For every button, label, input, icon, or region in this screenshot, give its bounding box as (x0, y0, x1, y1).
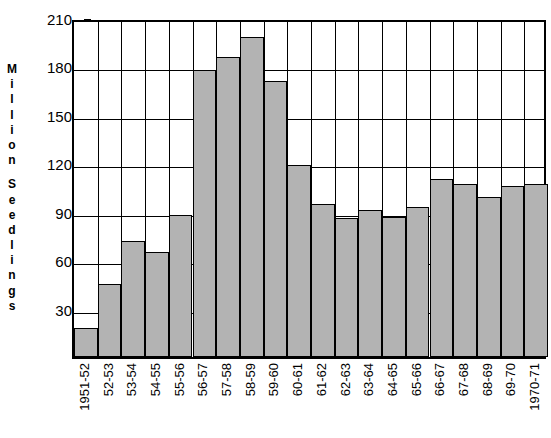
x-axis-tick-label-text: 55-56 (172, 363, 185, 396)
x-axis-tick-label-text: 59-60 (267, 363, 280, 396)
x-axis-tick-label-text: 63-64 (362, 363, 375, 396)
x-axis-tick-label: 1970-71 (522, 361, 546, 438)
y-axis-tick-label: 210 (28, 12, 72, 27)
x-axis-tick-label: 63-64 (356, 361, 380, 438)
y-axis-title-letter: l (10, 238, 13, 253)
bar (287, 165, 311, 357)
x-axis-tick-label: 55-56 (167, 361, 191, 438)
y-axis-title-letter: o (8, 138, 15, 153)
y-axis-title-letter: l (10, 92, 13, 107)
x-axis-tick-label: 67-68 (451, 361, 475, 438)
x-axis-tick-label: 62-63 (333, 361, 357, 438)
bar (193, 70, 217, 357)
bar (501, 186, 525, 357)
y-axis-title-letter: i (10, 123, 13, 138)
x-axis-tick-label-text: 68-69 (480, 363, 493, 396)
bar (74, 328, 98, 357)
x-axis-tick-label: 1951-52 (72, 361, 96, 438)
y-axis-tick-label: 30 (28, 303, 72, 318)
y-axis-tick-label: 60 (28, 254, 72, 269)
bar (145, 252, 169, 357)
x-axis-tick-label: 54-55 (143, 361, 167, 438)
y-axis-title-letter: s (9, 299, 16, 314)
bar (264, 81, 288, 357)
bar-chart: Million Seedlings 306090120150180210 195… (0, 0, 551, 438)
x-axis-tick-label: 52-53 (96, 361, 120, 438)
bar (240, 37, 264, 357)
bar (406, 207, 430, 357)
y-axis-title-letter: n (8, 153, 15, 168)
x-axis-tick-label: 64-65 (380, 361, 404, 438)
x-axis-tick-label: 58-59 (238, 361, 262, 438)
x-axis-tick-label-text: 1951-52 (77, 363, 90, 411)
x-axis-tick-label: 53-54 (119, 361, 143, 438)
x-axis-tick-label-text: 69-70 (504, 363, 517, 396)
x-axis-tick-label-text: 53-54 (125, 363, 138, 396)
x-axis-tick-label-text: 54-55 (148, 363, 161, 396)
x-axis-tick-label-text: 65-66 (409, 363, 422, 396)
bar (382, 217, 406, 357)
y-axis-tick-labels: 306090120150180210 (18, 0, 72, 438)
y-axis-title-letter: g (8, 284, 15, 299)
plot-area (72, 20, 546, 359)
bar (453, 184, 477, 357)
y-axis-title-letter: e (9, 208, 16, 223)
x-axis-tick-label-text: 67-68 (457, 363, 470, 396)
x-axis-tick-label-text: 57-58 (220, 363, 233, 396)
x-axis-tick-label-text: 62-63 (338, 363, 351, 396)
bar (477, 197, 501, 357)
bars-layer (74, 22, 544, 357)
x-axis-tick-label-text: 60-61 (291, 363, 304, 396)
bar (169, 215, 193, 357)
bar (524, 184, 548, 357)
y-axis-tick-label: 90 (28, 206, 72, 221)
x-axis-tick-label-text: 1970-71 (528, 363, 541, 411)
y-axis-title-letter: e (9, 193, 16, 208)
y-axis-title-letter: i (10, 253, 13, 268)
y-axis-title-letter: l (10, 108, 13, 123)
x-axis-tick-label: 60-61 (285, 361, 309, 438)
y-axis-tick-label: 150 (28, 109, 72, 124)
bar (358, 210, 382, 357)
y-axis-tick-label: 120 (28, 157, 72, 172)
x-axis-tick-label: 65-66 (404, 361, 428, 438)
y-axis-tick-label: 180 (28, 60, 72, 75)
bar (98, 284, 122, 357)
bar (430, 179, 454, 357)
x-axis-tick-label-text: 61-62 (314, 363, 327, 396)
x-axis-tick-label: 66-67 (428, 361, 452, 438)
y-axis-title-letter: S (8, 177, 16, 192)
y-axis-title-letter: n (8, 268, 15, 283)
x-axis-tick-label-text: 66-67 (433, 363, 446, 396)
x-axis-tick-label: 56-57 (191, 361, 215, 438)
x-axis-tick-label: 57-58 (214, 361, 238, 438)
bar (121, 241, 145, 357)
y-axis-title-letter: i (10, 77, 13, 92)
x-axis-tick-label: 59-60 (262, 361, 286, 438)
x-axis-tick-label-text: 64-65 (385, 363, 398, 396)
x-axis-tick-label-text: 52-53 (101, 363, 114, 396)
x-axis-tick-label: 61-62 (309, 361, 333, 438)
x-axis-tick-label-text: 56-57 (196, 363, 209, 396)
x-axis-tick-labels: 1951-5252-5353-5454-5555-5656-5757-5858-… (72, 361, 546, 438)
y-axis-title-letter (10, 168, 13, 177)
y-axis-title-letter: M (7, 62, 17, 77)
bar (216, 57, 240, 357)
bar (311, 204, 335, 357)
x-axis-tick-label: 68-69 (475, 361, 499, 438)
y-axis-title-letter: d (8, 223, 15, 238)
bar (335, 218, 359, 357)
x-axis-tick-label-text: 58-59 (243, 363, 256, 396)
x-axis-tick-label: 69-70 (499, 361, 523, 438)
